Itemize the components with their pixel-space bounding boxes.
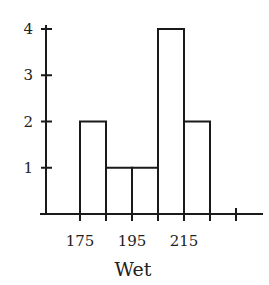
histogram-chart: 1234 175195215 Wet [0, 0, 269, 285]
x-tick-label: 195 [118, 232, 147, 250]
x-tick-label: 175 [66, 232, 95, 250]
y-tick-label: 2 [23, 113, 33, 131]
y-tick-label: 1 [23, 159, 33, 177]
y-tick-label: 4 [23, 20, 33, 38]
histogram-bar [158, 29, 184, 214]
x-axis-title: Wet [115, 258, 152, 280]
x-tick-label: 215 [170, 232, 199, 250]
y-tick-label: 3 [23, 66, 33, 84]
histogram-bar [132, 168, 158, 214]
bars [80, 29, 210, 214]
histogram-bar [106, 168, 132, 214]
y-ticks: 1234 [23, 20, 52, 177]
histogram-bar [184, 122, 210, 215]
histogram-bar [80, 122, 106, 215]
